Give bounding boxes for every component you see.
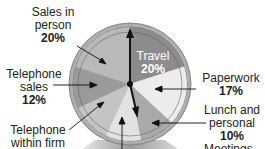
label-travel: Travel 20%	[133, 50, 173, 76]
label-paperwork: Paperwork 17%	[198, 72, 264, 98]
label-pct: 12%	[0, 94, 68, 107]
label-sales-in-person: Sales in person 20%	[22, 6, 84, 45]
label-pct: 20%	[22, 32, 84, 45]
label-pct: 17%	[198, 85, 264, 98]
label-text: Meetings	[204, 143, 264, 149]
label-telephone-sales: Telephone sales 12%	[0, 68, 68, 107]
label-lunch-personal: Lunch and personal 10%	[200, 104, 264, 143]
label-pct: 20%	[133, 63, 173, 76]
label-telephone-within-firm: Telephone within firm	[6, 124, 70, 149]
label-text: within firm	[6, 137, 70, 149]
clock-center	[127, 81, 133, 87]
label-meetings: Meetings	[204, 143, 264, 149]
